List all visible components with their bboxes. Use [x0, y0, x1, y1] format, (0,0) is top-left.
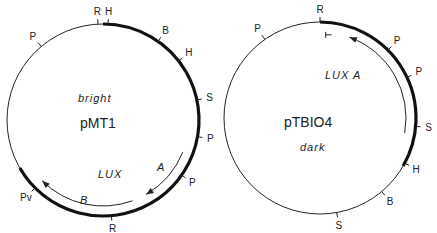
insert-segment: [103, 24, 186, 72]
restriction-site-label: P: [30, 31, 37, 42]
gene-arrow: [349, 37, 406, 133]
restriction-site-label: H: [413, 164, 420, 175]
restriction-site-tick: [32, 188, 36, 192]
insert-segment: [320, 22, 416, 166]
gene-arrow: [146, 152, 183, 194]
restriction-site-label: Pv: [20, 192, 32, 203]
restriction-site-tick: [38, 43, 41, 47]
restriction-site-label: P: [394, 35, 401, 46]
restriction-site-label: P: [415, 66, 422, 77]
plasmid-name-pMT1: pMT1: [80, 115, 116, 131]
restriction-site-label: S: [425, 122, 432, 133]
gene-arrowhead: [146, 188, 154, 195]
restriction-site-label: B: [387, 196, 394, 207]
gene-sub-label-b: B: [80, 194, 88, 206]
restriction-site-label: R: [94, 6, 101, 17]
restriction-site-tick: [262, 35, 265, 39]
restriction-site-tick: [337, 213, 338, 218]
restriction-site-label: R: [316, 4, 323, 15]
restriction-site-label: S: [336, 220, 343, 231]
gene-label-pMT1: LUX: [98, 168, 122, 180]
plasmid-name-pTBIO4: pTBIO4: [284, 114, 332, 130]
gene-sub-label-a: A: [156, 161, 165, 173]
gene-arrowhead: [349, 37, 357, 43]
restriction-site-label: H: [105, 6, 112, 17]
restriction-site-tick: [382, 192, 385, 196]
restriction-site-label: H: [185, 47, 192, 58]
restriction-site-label: P: [207, 133, 214, 144]
restriction-site-label: R: [109, 223, 116, 233]
plasmid-maps: RHBHSPPRPvP RPPSHBSP bright pMT1 LUX A B…: [0, 0, 437, 233]
restriction-site-label: P: [189, 177, 196, 188]
gene-label-pTBIO4: LUX A: [325, 69, 361, 81]
restriction-site-label: B: [162, 25, 169, 36]
restriction-site-label: S: [206, 92, 213, 103]
phenotype-label-pMT1: bright: [78, 92, 112, 104]
restriction-site-label: P: [254, 23, 261, 34]
phenotype-label-pTBIO4: dark: [300, 141, 325, 153]
